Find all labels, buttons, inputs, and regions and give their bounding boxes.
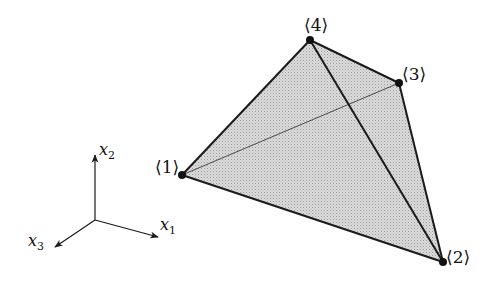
vertex-4-label: ⟨4⟩ [304, 15, 328, 35]
axis-x1-label: x1 [160, 215, 176, 237]
vertex-4-node [306, 36, 314, 44]
axis-x2-label: x2 [99, 140, 115, 162]
tetrahedron-diagram: ⟨1⟩ ⟨2⟩ ⟨3⟩ ⟨4⟩ x2 x1 x3 [0, 0, 496, 288]
axis-x3-arrow [55, 220, 95, 247]
axis-x3-label: x3 [28, 231, 44, 253]
coordinate-axes: x2 x1 x3 [28, 140, 176, 253]
vertex-2-label: ⟨2⟩ [446, 247, 470, 267]
axis-x1-arrow [95, 220, 158, 237]
vertex-1-label: ⟨1⟩ [155, 157, 179, 177]
vertex-3-label: ⟨3⟩ [402, 64, 426, 84]
vertex-1-node [178, 171, 186, 179]
